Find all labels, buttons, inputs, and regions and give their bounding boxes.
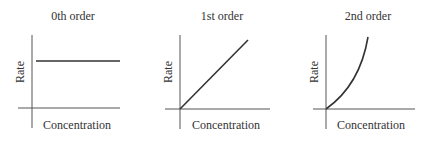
- x-axis-label: Concentration: [337, 118, 405, 132]
- y-axis-label: Rate: [13, 61, 27, 83]
- chart-2nd-order: 2nd order Rate Concentration: [307, 9, 415, 132]
- rate-order-charts: 0th order Rate Concentration 1st order R…: [0, 0, 437, 145]
- chart-title: 2nd order: [345, 9, 391, 23]
- y-axis-label: Rate: [161, 61, 175, 83]
- rate-line: [180, 40, 248, 109]
- chart-title: 1st order: [201, 9, 243, 23]
- x-axis-label: Concentration: [43, 118, 111, 132]
- rate-curve: [326, 37, 368, 109]
- chart-1st-order: 1st order Rate Concentration: [161, 9, 270, 132]
- y-axis-label: Rate: [307, 61, 321, 83]
- chart-0th-order: 0th order Rate Concentration: [13, 9, 120, 132]
- x-axis-label: Concentration: [192, 118, 260, 132]
- chart-title: 0th order: [51, 9, 95, 23]
